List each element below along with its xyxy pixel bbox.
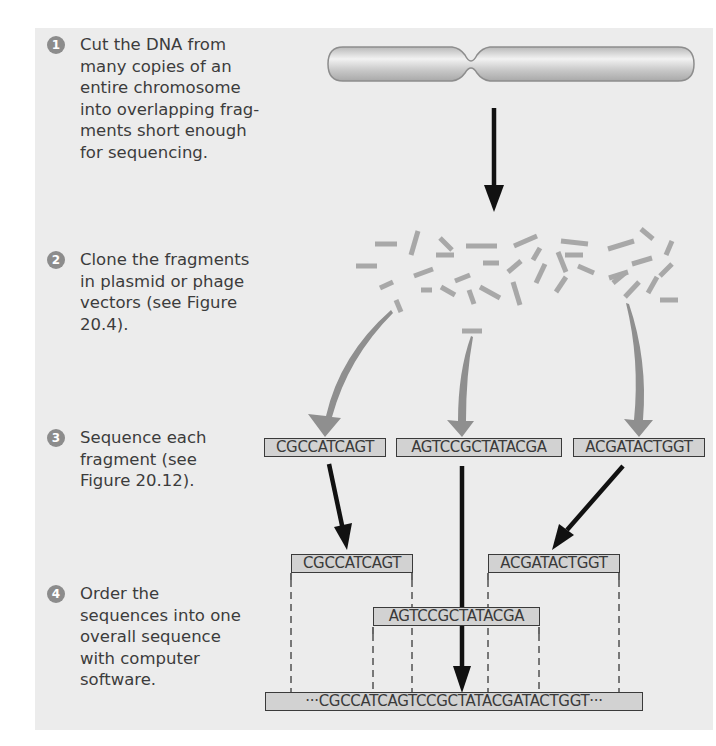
ordered-fragment-left: CGCCATCAGT — [291, 554, 413, 573]
ordered-fragment-right: ACGATACTGGT — [488, 554, 620, 573]
chromosome-icon — [328, 47, 694, 81]
overall-sequence: ···CGCCATCAGTCCGCTATACGATACTGGT··· — [265, 692, 643, 711]
sequenced-fragment-2: AGTCCGCTATACGA — [396, 438, 562, 457]
sequenced-fragment-3: ACGATACTGGT — [573, 438, 705, 457]
wedge-arrow-left-icon — [308, 310, 393, 437]
ordered-fragment-middle: AGTCCGCTATACGA — [373, 607, 540, 626]
wedge-arrows — [308, 303, 653, 437]
diagram-graphics — [0, 0, 716, 746]
wedge-arrow-right-icon — [624, 303, 653, 437]
wedge-arrow-middle-icon — [447, 336, 474, 437]
alignment-dashed-lines — [291, 580, 619, 692]
sequenced-fragment-1: CGCCATCAGT — [264, 438, 386, 457]
down-arrow-icon — [484, 108, 504, 212]
